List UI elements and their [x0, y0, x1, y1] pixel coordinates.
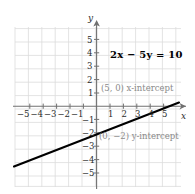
y-axis-label: y — [88, 14, 93, 23]
y-tick-label-5: 5 — [87, 36, 92, 45]
x-intercept-label: (5, 0) x-intercept — [101, 84, 173, 93]
x-tick-label-4: 4 — [149, 110, 154, 119]
y-tick-label-neg5: −5 — [82, 169, 95, 178]
plot-canvas — [0, 0, 195, 194]
coordinate-graph-figure: −5 −4 −3 −2 −1 1 2 3 4 5 5 4 3 2 1 −1 −2… — [0, 0, 195, 194]
y-tick-label-2: 2 — [87, 76, 92, 85]
x-tick-label-neg2: −2 — [58, 110, 71, 119]
y-tick-label-neg2: −2 — [82, 129, 95, 138]
y-intercept-label: (0, −2) y-intercept — [99, 132, 179, 141]
x-tick-label-5: 5 — [162, 110, 167, 119]
y-tick-label-neg4: −4 — [82, 156, 95, 165]
y-tick-label-neg1: −1 — [82, 116, 95, 125]
y-tick-label-3: 3 — [87, 62, 92, 71]
x-tick-label-neg3: −3 — [44, 110, 57, 119]
y-tick-label-4: 4 — [87, 49, 92, 58]
x-tick-label-neg4: −4 — [31, 110, 44, 119]
x-tick-label-neg5: −5 — [17, 110, 30, 119]
x-axis-label: x — [181, 112, 186, 121]
equation-label: 2x − 5y = 10 — [110, 50, 183, 60]
x-tick-label-1: 1 — [108, 110, 113, 119]
y-tick-label-neg3: −3 — [82, 142, 95, 151]
x-tick-label-3: 3 — [135, 110, 140, 119]
y-tick-label-1: 1 — [88, 89, 93, 98]
x-tick-label-2: 2 — [122, 110, 127, 119]
